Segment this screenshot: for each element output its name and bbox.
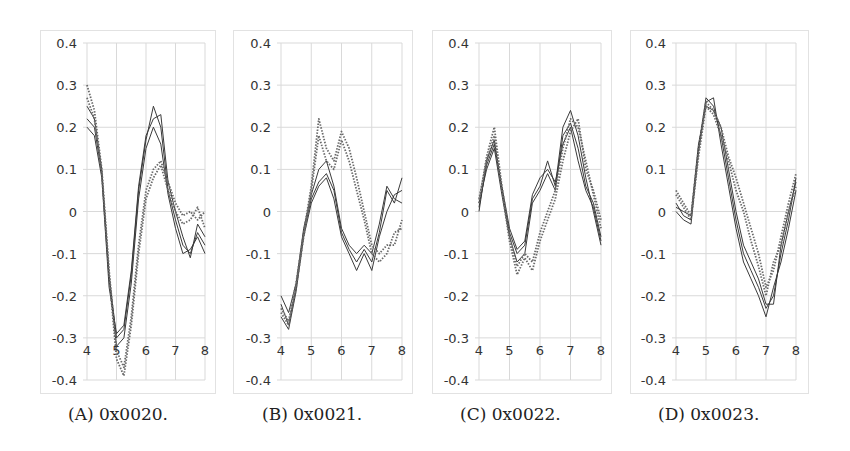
x-tick-label: 7 (762, 343, 770, 358)
y-tick-label: 0.4 (645, 36, 666, 51)
caption-d: (D) 0x0023. (658, 404, 759, 424)
y-tick-label: 0.1 (645, 162, 666, 177)
chart-d: 0.40.30.20.10-0.1-0.2-0.3-0.445678 (0, 0, 850, 451)
y-tick-label: -0.2 (641, 289, 666, 304)
y-tick-label: 0.3 (645, 78, 666, 93)
y-tick-label: 0 (658, 205, 666, 220)
x-tick-label: 5 (702, 343, 710, 358)
y-tick-label: -0.1 (641, 247, 666, 262)
y-tick-label: -0.4 (641, 373, 666, 388)
x-tick-label: 8 (792, 343, 800, 358)
y-tick-label: -0.3 (641, 331, 666, 346)
x-tick-label: 6 (732, 343, 740, 358)
panel-d: 0.40.30.20.10-0.1-0.2-0.3-0.445678 (D) 0… (0, 0, 850, 451)
x-tick-label: 4 (672, 343, 680, 358)
y-tick-label: 0.2 (645, 120, 666, 135)
